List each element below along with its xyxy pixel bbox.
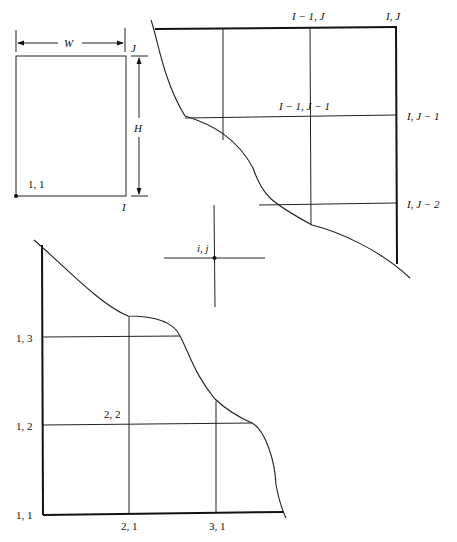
corner-label-j: J — [131, 42, 137, 54]
arrowhead-left — [17, 41, 24, 46]
label-2-2: 2, 2 — [104, 408, 121, 420]
arrowhead-bottom — [137, 188, 142, 195]
height-label: H — [133, 122, 143, 134]
label-i-minus-1-j: I − 1, J — [291, 10, 326, 22]
label-i-j-minus-1: I, J − 1 — [406, 110, 439, 122]
label-2-1: 2, 1 — [121, 520, 138, 532]
width-label: W — [64, 37, 74, 49]
node-label: i, j — [197, 242, 209, 254]
arrowhead-top — [137, 57, 142, 64]
label-i-j-minus-2: I, J − 2 — [406, 198, 440, 210]
grid-horizontal-1 — [43, 336, 180, 337]
origin-dot — [14, 194, 18, 198]
bottom-boundary — [43, 512, 284, 515]
label-i-minus-1-j-minus-1: I − 1, J − 1 — [278, 100, 330, 112]
rectangle-outline — [16, 56, 126, 196]
origin-label: 1, 1 — [28, 178, 45, 190]
grid-diagram: W H 1, 1 J I I − 1, J I, J I − 1, J − 1 … — [0, 0, 457, 542]
bottom-left-grid: 1, 3 1, 2 1, 1 2, 2 2, 1 3, 1 — [16, 240, 286, 532]
grid-horizontal-2 — [259, 203, 396, 205]
grid-horizontal-1 — [185, 115, 396, 118]
top-right-grid: I − 1, J I, J I − 1, J − 1 I, J − 1 I, J… — [151, 10, 440, 278]
left-boundary — [42, 245, 43, 515]
label-i-j: I, J — [385, 10, 401, 22]
label-1-3: 1, 3 — [16, 332, 33, 344]
domain-rectangle: W H 1, 1 J I — [14, 28, 148, 213]
node-dot — [213, 256, 217, 260]
arrowhead-right — [117, 41, 124, 46]
label-1-1: 1, 1 — [16, 509, 33, 521]
curved-boundary — [151, 20, 410, 278]
grid-vertical-2 — [310, 28, 311, 225]
corner-label-i: I — [121, 201, 127, 213]
label-3-1: 3, 1 — [209, 520, 226, 532]
right-boundary — [396, 27, 397, 264]
curved-boundary — [34, 240, 286, 518]
generic-node: i, j — [164, 205, 265, 307]
top-boundary — [155, 27, 397, 29]
label-1-2: 1, 2 — [16, 420, 33, 432]
grid-horizontal-2 — [43, 423, 252, 425]
